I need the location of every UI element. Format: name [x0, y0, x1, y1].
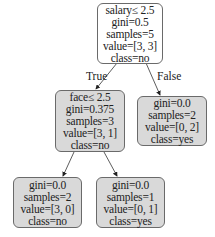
node-value: value=[0, 2] [145, 121, 199, 133]
node-split-condition: salary≤ 2.5 [106, 4, 155, 16]
node-gini: gini=0.375 [66, 103, 114, 115]
node-class: class=yes [151, 133, 193, 145]
edge-label-true: True [86, 70, 107, 82]
edge-left-to-leftleft [63, 152, 74, 176]
node-gini: gini=0.0 [112, 179, 149, 191]
node-value: value=[3, 1] [63, 127, 117, 139]
edge-left-to-leftright [104, 152, 117, 176]
node-value: value=[0, 1] [104, 203, 158, 215]
node-gini: gini=0.0 [153, 97, 190, 109]
node-value: value=[3, 0] [21, 203, 75, 215]
node-class: class=no [71, 139, 110, 151]
node-class: class=no [111, 52, 150, 64]
node-samples: samples=3 [66, 115, 114, 127]
node-samples: samples=1 [107, 191, 155, 203]
tree-node-root: salary≤ 2.5 gini=0.5 samples=5 value=[3,… [97, 3, 163, 64]
node-gini: gini=0.5 [111, 16, 148, 28]
tree-node-left-left-leaf: gini=0.0 samples=2 value=[3, 0] class=no [13, 177, 82, 228]
node-class: class=yes [109, 215, 151, 227]
node-samples: samples=5 [106, 28, 154, 40]
node-samples: samples=2 [24, 191, 72, 203]
node-samples: samples=2 [148, 109, 196, 121]
node-value: value=[3, 3] [103, 40, 157, 52]
node-class: class=no [28, 215, 67, 227]
edge-label-false: False [157, 70, 181, 82]
tree-node-left-right-leaf: gini=0.0 samples=1 value=[0, 1] class=ye… [96, 177, 165, 228]
node-gini: gini=0.0 [29, 179, 66, 191]
tree-node-left: face≤ 2.5 gini=0.375 samples=3 value=[3,… [55, 90, 125, 152]
node-split-condition: face≤ 2.5 [70, 91, 111, 103]
tree-node-right-leaf: gini=0.0 samples=2 value=[0, 2] class=ye… [137, 96, 207, 146]
